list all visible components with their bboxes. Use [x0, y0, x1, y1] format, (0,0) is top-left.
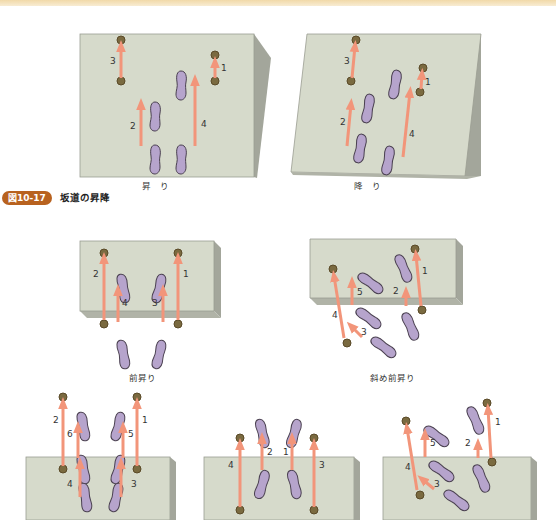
step-label: 3 [319, 460, 325, 470]
step-label: 1 [221, 63, 227, 73]
slope-side [254, 34, 271, 178]
step-label: 4 [228, 460, 234, 470]
slope-face [80, 34, 254, 177]
step-label: 3 [131, 479, 137, 489]
figure-title: 坂道の昇降 [60, 191, 110, 205]
figure-canvas: 3 1 2 4 昇 り 3 1 2 4 降 り [0, 0, 556, 520]
step-label: 3 [110, 56, 116, 66]
step-label: 4 [332, 310, 338, 320]
step-label: 5 [357, 287, 363, 297]
step-label: 1 [142, 415, 148, 425]
step-label: 2 [465, 438, 471, 448]
step-label: 3 [434, 479, 440, 489]
step-label: 2 [267, 447, 273, 457]
diagram-slope-up: 3 1 2 4 昇 り [80, 34, 271, 191]
step-label: 4 [122, 298, 128, 308]
step-label: 6 [67, 429, 73, 439]
step-label: 1 [422, 266, 428, 276]
caption: 降 り [354, 181, 381, 191]
step-label: 2 [53, 415, 59, 425]
step-label: 4 [405, 462, 411, 472]
caption: 前昇り [129, 373, 156, 383]
step-label: 2 [130, 121, 136, 131]
step-label: 5 [128, 429, 134, 439]
diagram-stairs-diagonal-up: 4 5 3 1 2 斜め前昇り [310, 239, 463, 383]
caption: 昇 り [142, 181, 169, 191]
step-label: 2 [340, 117, 346, 127]
step-label: 4 [201, 119, 207, 129]
step-label: 2 [393, 286, 399, 296]
step-label: 3 [361, 327, 367, 337]
step-label: 4 [67, 479, 73, 489]
step-label: 5 [430, 438, 436, 448]
diagram-stairs-diagonal-down: 4 5 3 1 2 [383, 399, 537, 520]
diagram-stairs-front-up: 2 1 4 3 前昇り [80, 241, 221, 383]
step-label: 2 [93, 269, 99, 279]
figure-number-badge: 図10-17 [2, 191, 52, 205]
diagram-stairs-front-down-2: 4 3 2 1 [204, 418, 360, 520]
step-label: 1 [425, 77, 431, 87]
step-label: 1 [283, 447, 289, 457]
step-label: 4 [409, 129, 415, 139]
step-label: 1 [495, 417, 501, 427]
diagram-stairs-front-down: 2 1 6 5 4 3 [26, 393, 176, 520]
step-label: 3 [344, 56, 350, 66]
diagram-slope-down: 3 1 2 4 降 り [291, 34, 481, 191]
caption: 斜め前昇り [370, 373, 415, 383]
step-label: 1 [183, 269, 189, 279]
step-label: 3 [152, 298, 158, 308]
